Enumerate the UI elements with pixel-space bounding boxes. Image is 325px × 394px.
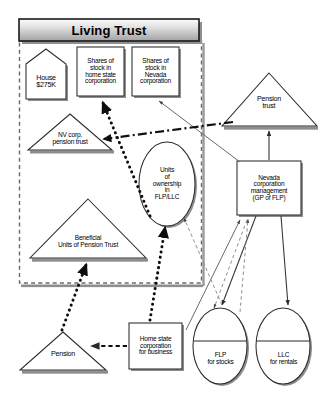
node-llc-for-rentals — [256, 308, 312, 386]
node-units-of-ownership — [139, 142, 197, 228]
diagram-canvas — [0, 0, 325, 394]
connector-homestate-to-units — [150, 228, 165, 320]
node-pension — [20, 332, 108, 374]
connector-pension-to-beneficialunits — [62, 265, 86, 330]
connector-llc-to-nevadacorp — [240, 219, 248, 312]
node-home-state-corporation — [129, 323, 184, 371]
node-nv-corp-pension-trust — [28, 114, 114, 154]
connector-nevadacorp-to-llc — [281, 216, 288, 305]
node-beneficial-units — [30, 199, 148, 262]
connector-pensiontrust-to-nvcorppension — [104, 122, 233, 139]
page-title: Living Trust — [19, 19, 199, 41]
node-flp-for-stocks — [193, 308, 249, 386]
node-pension-trust — [222, 73, 318, 130]
connector-nevadacorp-to-flp — [222, 216, 256, 305]
node-shares-home-state — [77, 47, 126, 98]
node-shares-nevada — [132, 47, 181, 98]
node-house — [26, 49, 68, 101]
node-nevada-corp-management — [237, 161, 303, 217]
living-trust-diagram: Living Trust House $275K Shares of stock… — [0, 0, 325, 394]
